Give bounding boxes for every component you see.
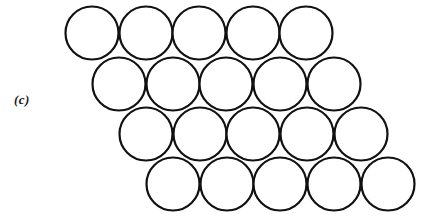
figure-panel: (c) (0, 0, 436, 216)
sphere-group (66, 7, 415, 211)
panel-label: (c) (14, 92, 30, 108)
sphere-circle-r1-c3 (173, 7, 226, 60)
sphere-circle-r1-c4 (227, 7, 280, 60)
sphere-circle-r4-c3 (254, 158, 307, 211)
close-packed-sphere-layer-diagram (0, 0, 436, 216)
sphere-circle-r3-c2 (174, 108, 227, 161)
sphere-circle-r1-c5 (280, 7, 333, 60)
sphere-circle-r3-c4 (281, 108, 334, 161)
sphere-circle-r4-c5 (362, 158, 415, 211)
sphere-circle-r4-c1 (147, 158, 200, 211)
sphere-circle-r3-c1 (120, 108, 173, 161)
sphere-circle-r4-c2 (201, 158, 254, 211)
sphere-circle-r1-c1 (66, 7, 119, 60)
sphere-circle-r3-c5 (335, 108, 388, 161)
sphere-circle-r3-c3 (227, 108, 280, 161)
sphere-circle-r2-c3 (200, 58, 253, 111)
sphere-circle-r1-c2 (120, 7, 173, 60)
sphere-circle-r4-c4 (308, 158, 361, 211)
sphere-circle-r2-c4 (254, 58, 307, 111)
sphere-circle-r2-c2 (147, 58, 200, 111)
sphere-circle-r2-c1 (93, 58, 146, 111)
sphere-circle-r2-c5 (308, 58, 361, 111)
